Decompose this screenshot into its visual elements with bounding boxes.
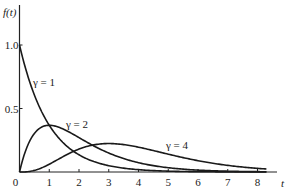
x-tick-label: 2 [76, 176, 82, 188]
x-tick-label: 3 [106, 176, 112, 188]
y-tick-label: 0.5 [5, 103, 19, 115]
x-tick-label: 7 [225, 176, 231, 188]
x-tick-label: 1 [47, 176, 53, 188]
x-tick-label: 5 [166, 176, 172, 188]
x-axis-label: t [281, 178, 284, 189]
x-tick-label: 8 [255, 176, 261, 188]
chart-plot-area: 0123456780.51.0 [0, 0, 291, 191]
curve-gamma-1 [20, 45, 267, 172]
y-tick-label: 1.0 [5, 39, 19, 51]
y-axis-label: f(t) [3, 7, 16, 18]
curve-label-gamma-1: γ = 1 [33, 77, 55, 88]
curve-label-gamma-4: γ = 4 [166, 140, 188, 151]
x-tick-label: 6 [195, 176, 201, 188]
curve-label-gamma-2: γ = 2 [66, 119, 88, 130]
x-tick-label: 0 [13, 176, 19, 188]
curve-gamma-4 [20, 144, 267, 172]
x-tick-label: 4 [136, 176, 142, 188]
